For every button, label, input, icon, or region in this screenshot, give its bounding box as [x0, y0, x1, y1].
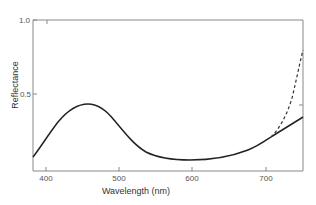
y-axis-title: Reflectance: [10, 61, 20, 109]
y-tick-label-1-0: 1.0: [19, 16, 31, 25]
dashed-reflectance-curve: [271, 50, 303, 137]
x-tick-label-500: 500: [112, 174, 126, 183]
y-tick-label-0-5: 0.5: [20, 90, 32, 99]
reflectance-chart: 1.0 0.5 400 500 600 700 Wavelength (nm) …: [0, 0, 316, 205]
solid-reflectance-curve: [33, 104, 303, 160]
x-tick-label-600: 600: [185, 174, 199, 183]
x-axis-title: Wavelength (nm): [102, 186, 170, 196]
x-tick-label-700: 700: [259, 174, 273, 183]
x-tick-label-400: 400: [39, 174, 53, 183]
